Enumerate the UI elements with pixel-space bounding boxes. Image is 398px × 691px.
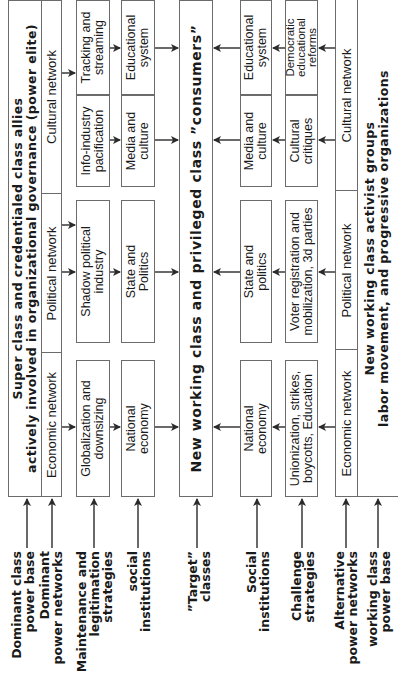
flow-arrows xyxy=(0,0,398,691)
power-structure-diagram: Dominant class power base Dominant power… xyxy=(0,0,398,691)
